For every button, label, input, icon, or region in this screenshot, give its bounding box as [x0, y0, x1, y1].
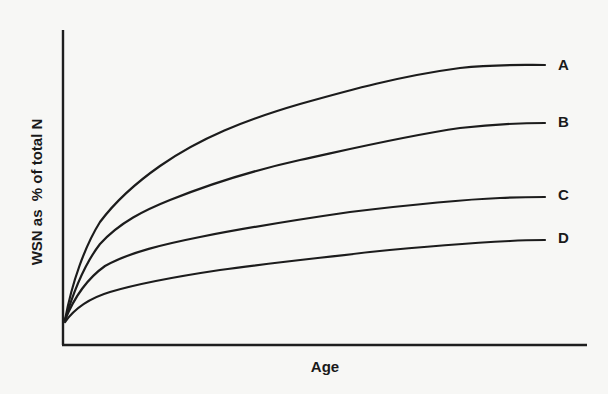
series-label-b: B — [558, 113, 569, 130]
curve-b — [65, 123, 545, 320]
series-label-d: D — [558, 229, 569, 246]
y-axis-title: WSN as % of total N — [28, 119, 45, 266]
series-label-a: A — [558, 56, 569, 73]
x-axis-title: Age — [311, 358, 339, 375]
series-label-c: C — [558, 186, 569, 203]
chart-figure: A B C D Age WSN as % of total N — [0, 0, 608, 394]
line-chart: A B C D Age WSN as % of total N — [0, 0, 608, 394]
curve-a — [65, 65, 545, 320]
